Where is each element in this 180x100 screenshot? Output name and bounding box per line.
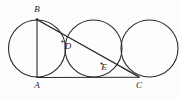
point-label-b: B (34, 4, 40, 14)
geometry-figure: A B C D E (0, 0, 180, 100)
segment-bc (37, 20, 139, 78)
vertex-dot-b (36, 18, 39, 21)
point-label-c: C (136, 80, 143, 90)
vertex-dot-d (61, 40, 63, 42)
point-label-d: D (64, 41, 72, 51)
circle-right (121, 20, 178, 77)
point-label-a: A (33, 80, 40, 90)
point-label-e: E (100, 62, 107, 72)
circle-middle (65, 20, 122, 77)
geometry-canvas: A B C D E (0, 0, 180, 100)
